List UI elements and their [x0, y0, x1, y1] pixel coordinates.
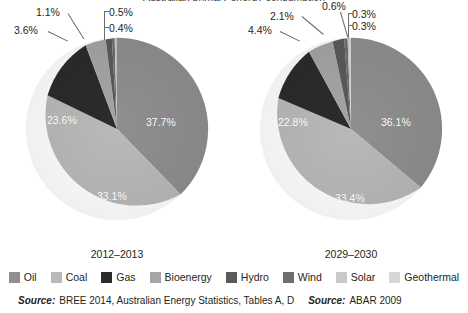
legend-item-geothermal[interactable]: Geothermal: [389, 272, 459, 283]
year-label-right: 2029–2030: [234, 248, 468, 260]
callout-bioenergy-right: 4.4%: [248, 24, 272, 36]
pie-svg-left: [24, 36, 210, 222]
legend-label-wind: Wind: [298, 272, 322, 283]
callout-bioenergy-left: 3.6%: [14, 24, 38, 36]
pie-svg-right: [258, 36, 444, 222]
source-line: Source: BREE 2014, Australian Energy Sta…: [0, 292, 468, 308]
pie-chart-2012-2013: 3.6% 1.1% 0.5% 0.4%: [0, 0, 234, 268]
legend-item-coal[interactable]: Coal: [51, 272, 88, 283]
legend-item-gas[interactable]: Gas: [101, 272, 135, 283]
figure-root: Australian primary energy consumption 3.…: [0, 0, 468, 313]
callout-wind-left: 0.5%: [109, 6, 133, 18]
legend: Oil Coal Gas Bioenergy Hydro Wind Solar: [0, 269, 468, 285]
legend-swatch-geothermal: [389, 272, 400, 283]
legend-label-oil: Oil: [24, 272, 37, 283]
source-left: Source: BREE 2014, Australian Energy Sta…: [18, 295, 294, 306]
legend-swatch-bioenergy: [150, 272, 161, 283]
pie-chart-2029-2030: 4.4% 2.1% 0.6% 0.3% 0.3%: [234, 0, 468, 268]
leader-hydro-right: [302, 16, 324, 35]
legend-label-bioenergy: Bioenergy: [165, 272, 212, 283]
source-right: Source: ABAR 2009: [308, 295, 402, 306]
legend-item-wind[interactable]: Wind: [283, 272, 322, 283]
callout-hydro-left: 1.1%: [36, 6, 60, 18]
pie-body-right: [258, 36, 444, 222]
legend-item-oil[interactable]: Oil: [9, 272, 37, 283]
leader-solar-right-tick: [348, 13, 353, 14]
callout-solar-left: 0.4%: [109, 22, 133, 34]
source-left-text: BREE 2014, Australian Energy Statistics,…: [59, 295, 294, 306]
legend-swatch-hydro: [226, 272, 237, 283]
source-right-keyword: Source:: [308, 295, 345, 306]
source-left-keyword: Source:: [18, 295, 55, 306]
legend-swatch-solar: [336, 272, 347, 283]
leader-wind-left-tick: [104, 11, 109, 12]
year-label-left: 2012–2013: [0, 248, 234, 260]
source-right-text: ABAR 2009: [349, 295, 401, 306]
leader-solar-left-tick: [104, 27, 109, 28]
legend-label-coal: Coal: [66, 272, 88, 283]
legend-swatch-coal: [51, 272, 62, 283]
pie-body-left: [24, 36, 210, 222]
leader-wind-right: [340, 12, 348, 37]
legend-swatch-wind: [283, 272, 294, 283]
legend-label-gas: Gas: [116, 272, 135, 283]
legend-swatch-gas: [101, 272, 112, 283]
legend-item-bioenergy[interactable]: Bioenergy: [150, 272, 212, 283]
legend-item-solar[interactable]: Solar: [336, 272, 376, 283]
callout-hydro-right: 2.1%: [270, 10, 294, 22]
leader-geothermal-right-tick: [348, 25, 353, 26]
legend-label-geothermal: Geothermal: [404, 272, 459, 283]
callout-geothermal-right: 0.3%: [352, 20, 376, 32]
callout-solar-right: 0.3%: [352, 8, 376, 20]
legend-label-solar: Solar: [351, 272, 376, 283]
legend-item-hydro[interactable]: Hydro: [226, 272, 269, 283]
legend-label-hydro: Hydro: [241, 272, 269, 283]
legend-swatch-oil: [9, 272, 20, 283]
callout-wind-right: 0.6%: [322, 0, 346, 12]
